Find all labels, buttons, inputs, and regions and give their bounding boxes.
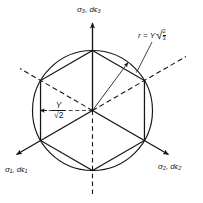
apothem-numerator: Y <box>52 101 65 110</box>
axis-label-sigma1-text: σ₁, dϵ₁ <box>5 165 27 174</box>
radius-denominator: 3 <box>163 35 166 42</box>
radius-indicator-line <box>93 63 129 111</box>
pi-plane-yield-surface-figure: σ₃, dϵ₃ σ₁, dϵ₁ σ₂, dϵ₂ Y √2 r = Y √ 2 3 <box>0 0 203 203</box>
axis-label-sigma2-text: σ₂, dϵ₂ <box>158 162 181 171</box>
radius-label-prefix: r = Y <box>138 31 155 40</box>
axis-label-sigma2: σ₂, dϵ₂ <box>158 163 181 171</box>
radius-radical-group: √ 2 3 <box>156 29 166 42</box>
axis-label-sigma3-text: σ₃, dϵ₃ <box>77 5 101 14</box>
apothem-label: Y √2 <box>52 101 65 120</box>
axis-label-sigma3: σ₃, dϵ₃ <box>77 6 101 14</box>
radius-fraction: 2 3 <box>163 29 166 42</box>
apothem-denominator: √2 <box>52 110 65 120</box>
radius-label: r = Y √ 2 3 <box>138 29 166 42</box>
radical-sign: √ <box>156 29 163 42</box>
radius-label-leader <box>137 42 153 73</box>
diagram-canvas <box>0 0 203 203</box>
dashed-axis-upper-right <box>93 57 187 111</box>
radius-numerator: 2 <box>163 29 166 35</box>
axis-label-sigma1: σ₁, dϵ₁ <box>5 166 27 174</box>
